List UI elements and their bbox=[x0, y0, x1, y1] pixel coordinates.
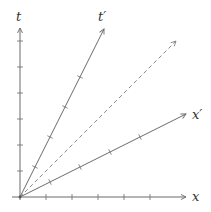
x-axis: x bbox=[12, 189, 200, 204]
spacetime-diagram: t x t′ x′ bbox=[0, 0, 211, 212]
x-prime-axis-line bbox=[20, 114, 186, 197]
t-prime-axis: t′ bbox=[20, 9, 106, 197]
t-prime-axis-line bbox=[20, 29, 104, 197]
t-prime-axis-label: t′ bbox=[98, 9, 106, 24]
t-axis-label: t bbox=[16, 9, 22, 24]
x-axis-label: x bbox=[192, 189, 200, 204]
t-axis: t bbox=[16, 9, 23, 200]
origin-point bbox=[19, 196, 22, 199]
light-cone-line bbox=[20, 41, 176, 197]
x-prime-axis: x′ bbox=[20, 107, 202, 197]
x-prime-axis-label: x′ bbox=[192, 107, 202, 122]
